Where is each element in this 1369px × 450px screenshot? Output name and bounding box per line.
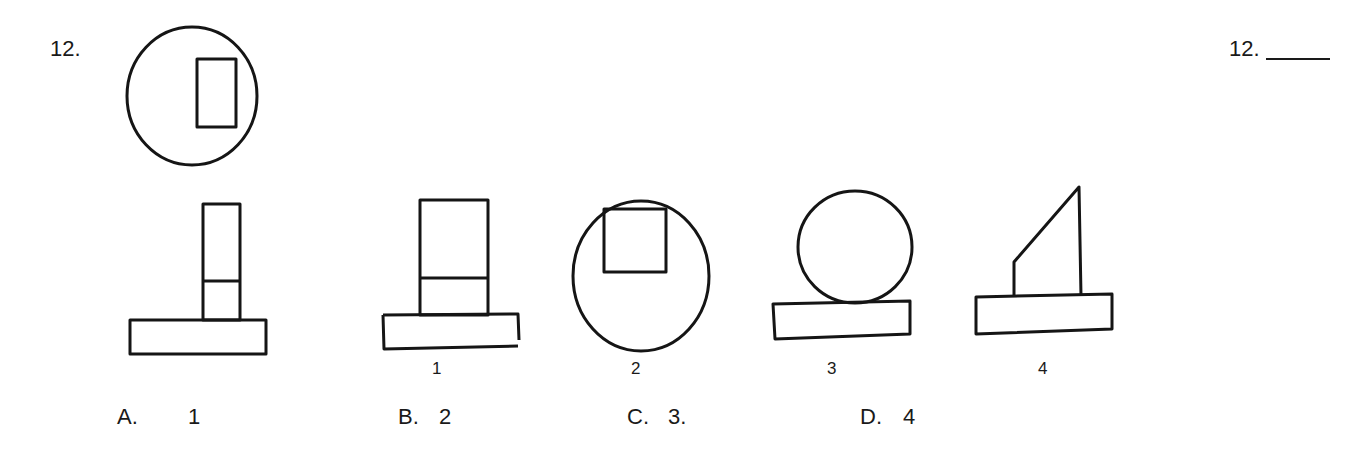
view-front-figure [130,204,266,354]
view-label-4: 4 [1038,360,1047,377]
reference-figure [127,27,257,165]
view-3-figure [773,191,912,339]
choice-b-letter: B. [398,406,419,428]
choice-c-letter: C. [627,406,649,428]
view-4-figure [976,187,1112,334]
view-1-figure [383,200,519,349]
view-label-3: 3 [827,360,836,377]
figures-drawing [0,0,1369,450]
view-label-1: 1 [432,360,441,377]
choice-a-value: 1 [188,406,200,428]
view-2-figure [573,201,709,351]
choice-a-letter: A. [117,406,138,428]
choice-c-value: 3. [668,406,686,428]
view-label-2: 2 [631,360,640,377]
choice-b-value: 2 [439,406,451,428]
choice-d-letter: D. [860,406,882,428]
choice-d-value: 4 [903,406,915,428]
